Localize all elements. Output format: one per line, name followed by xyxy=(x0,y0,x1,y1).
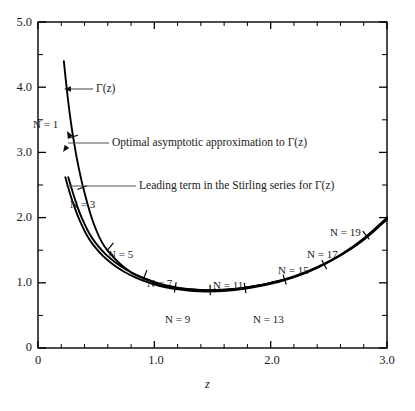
annotation-optimal: Optimal asymptotic approximation to Γ(z) xyxy=(112,137,307,149)
y-tick-label-0: 0 xyxy=(2,341,32,354)
figure-gamma-asymptotic-approximations: 5.0 4.0 3.0 2.0 1.0 0 0 1.0 2.0 3.0 z Γ(… xyxy=(0,0,415,411)
y-tick-label-1: 1.0 xyxy=(2,276,32,289)
n-marker-ticks xyxy=(68,135,369,295)
n-label-11: N = 11 xyxy=(213,280,243,291)
x-tick-label-3: 3.0 xyxy=(372,354,402,367)
x-tick-label-0: 0 xyxy=(23,354,53,367)
n-label-5: N = 5 xyxy=(108,249,133,260)
x-tick-label-2: 2.0 xyxy=(257,354,287,367)
y-tick-label-4: 4.0 xyxy=(2,81,32,94)
n-tick-13 xyxy=(244,283,246,293)
n-label-9: N = 9 xyxy=(165,314,190,325)
x-tick-label-1: 1.0 xyxy=(141,354,171,367)
chart-canvas xyxy=(0,0,415,411)
n-label-7: N = 7 xyxy=(147,278,172,289)
y-tick-label-2: 2.0 xyxy=(2,211,32,224)
n-label-1: N = 1 xyxy=(33,119,58,130)
annotation-gamma: Γ(z) xyxy=(96,83,115,95)
n-label-17: N = 17 xyxy=(307,249,338,260)
n-label-19: N = 19 xyxy=(330,227,361,238)
x-axis-title: z xyxy=(205,378,210,390)
n-label-13: N = 13 xyxy=(253,314,284,325)
annotation-stirling: Leading term in the Stirling series for … xyxy=(139,180,334,192)
n-label-15: N = 15 xyxy=(278,265,309,276)
y-tick-label-3: 3.0 xyxy=(2,146,32,159)
n-tick-9 xyxy=(174,282,176,292)
n-label-3: N = 3 xyxy=(70,199,95,210)
y-tick-label-5: 5.0 xyxy=(2,16,32,29)
